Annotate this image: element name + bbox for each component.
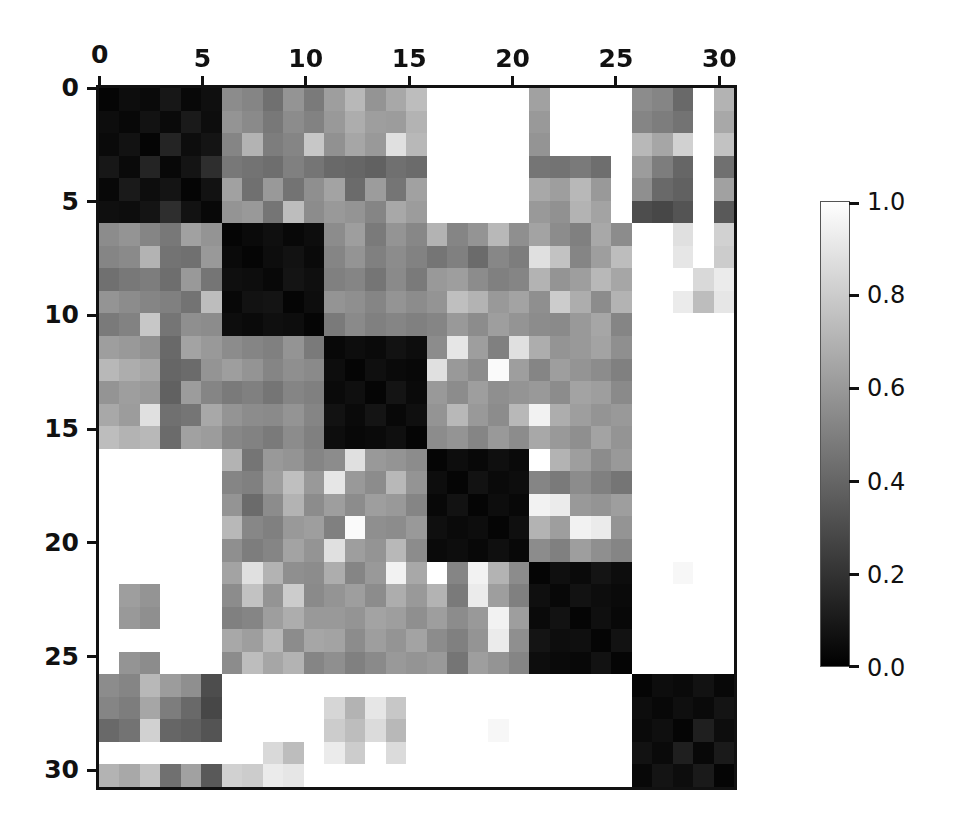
x-tick-label: 5 [167,44,237,74]
heatmap-image [99,88,734,787]
x-tick-label: 15 [374,44,444,74]
x-tick-mark [614,76,617,87]
colorbar-tick-label: 0.2 [867,561,905,589]
y-tick-label: 25 [19,642,79,672]
x-tick-mark [408,76,411,87]
heatmap-axes: 0 51015202530 051015202530 [96,85,737,790]
x-tick-mark [201,76,204,87]
x-tick-mark [511,76,514,87]
y-tick-mark [87,655,98,658]
x-tick-label: 20 [478,44,548,74]
y-tick-label: 30 [19,755,79,785]
colorbar-axes: 0.00.20.40.60.81.0 [820,201,850,667]
x-tick-mark [98,76,101,87]
y-tick-mark [87,769,98,772]
y-tick-mark [87,314,98,317]
colorbar-gradient [821,202,849,666]
y-tick-mark [87,541,98,544]
y-tick-label: 10 [19,300,79,330]
colorbar-tick-label: 0.0 [867,654,905,682]
y-tick-label: 5 [19,187,79,217]
heatmap-figure: 0 51015202530 051015202530 0.00.20.40.60… [0,0,955,828]
colorbar-tick-mark [849,665,859,668]
colorbar-tick-label: 1.0 [867,188,905,216]
colorbar-tick-label: 0.4 [867,468,905,496]
y-tick-mark [87,200,98,203]
y-tick-label: 20 [19,528,79,558]
colorbar-tick-mark [849,294,859,297]
x-tick-label: 30 [684,44,754,74]
colorbar-tick-mark [849,480,859,483]
y-tick-mark [87,87,98,90]
colorbar-tick-label: 0.8 [867,281,905,309]
colorbar-tick-mark [849,387,859,390]
colorbar-tick-mark [849,202,859,205]
x-tick-label: 10 [271,44,341,74]
y-tick-mark [87,428,98,431]
x-tick-mark [304,76,307,87]
colorbar-tick-label: 0.6 [867,374,905,402]
x-axis-origin-label: 0 [91,40,108,69]
x-tick-label: 25 [581,44,651,74]
x-tick-mark [718,76,721,87]
y-tick-label: 15 [19,414,79,444]
y-tick-label: 0 [19,73,79,103]
colorbar-tick-mark [849,573,859,576]
